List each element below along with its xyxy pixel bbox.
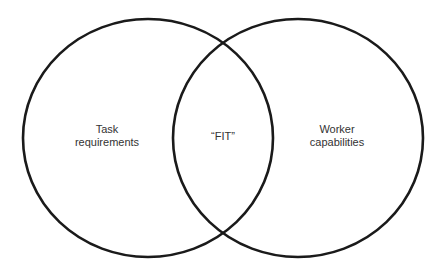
fit-label-text: “FIT” <box>196 130 250 143</box>
worker-capabilities-label-line1: Worker <box>292 123 382 136</box>
fit-label: “FIT” <box>196 130 250 143</box>
task-requirements-label-line1: Task <box>62 123 152 136</box>
task-requirements-label: Task requirements <box>62 123 152 149</box>
task-requirements-label-line2: requirements <box>62 136 152 149</box>
worker-capabilities-label-line2: capabilities <box>292 136 382 149</box>
worker-capabilities-label: Worker capabilities <box>292 123 382 149</box>
venn-diagram: Task requirements “FIT” Worker capabilit… <box>0 0 440 271</box>
